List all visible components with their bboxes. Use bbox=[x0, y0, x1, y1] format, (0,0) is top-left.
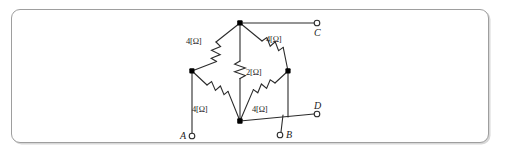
figure-canvas: 4[Ω] 4[Ω] 2[Ω] 4[Ω] 4[Ω] A B C D bbox=[0, 0, 505, 161]
resistor-bottom-right-zigzag bbox=[253, 80, 275, 93]
terminal-label-a: A bbox=[180, 131, 186, 141]
terminal-d-circle[interactable] bbox=[314, 111, 320, 117]
resistor-label-top-left: 4[Ω] bbox=[186, 37, 201, 46]
resistor-label-center: 2[Ω] bbox=[246, 68, 261, 77]
wire-bottom-to-d bbox=[240, 114, 314, 121]
node-right bbox=[285, 68, 290, 73]
terminal-label-c: C bbox=[314, 28, 321, 38]
terminal-b-circle[interactable] bbox=[277, 132, 283, 138]
circuit-diagram bbox=[0, 0, 505, 161]
terminal-a-circle[interactable] bbox=[189, 133, 195, 139]
resistor-label-bottom-right: 4[Ω] bbox=[252, 105, 267, 114]
node-left bbox=[189, 68, 194, 73]
lead-r-top-right-b bbox=[283, 47, 288, 71]
resistor-top-left-zigzag bbox=[211, 42, 220, 61]
lead-r-top-right-a bbox=[240, 23, 262, 41]
resistor-label-bottom-left: 4[Ω] bbox=[192, 105, 207, 114]
terminal-label-b: B bbox=[286, 130, 292, 140]
terminal-c-circle[interactable] bbox=[314, 20, 320, 26]
lead-r-top-left-a bbox=[216, 23, 240, 42]
node-bottom bbox=[237, 118, 242, 123]
resistor-label-top-right: 4[Ω] bbox=[266, 35, 281, 44]
lead-r-bottom-left-b bbox=[228, 91, 240, 121]
resistor-bottom-left-zigzag bbox=[207, 82, 228, 95]
resistor-center-zigzag bbox=[235, 61, 246, 79]
node-top bbox=[237, 20, 242, 25]
terminal-label-d: D bbox=[314, 101, 321, 111]
lead-r-top-left-b bbox=[192, 61, 217, 71]
